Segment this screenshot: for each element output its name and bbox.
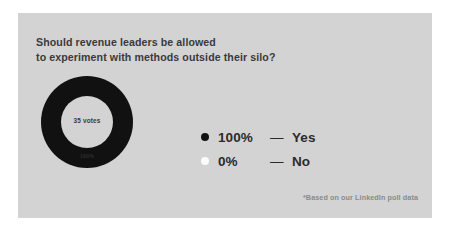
donut-chart: 35 votes 100% [41,76,133,168]
donut-center-votes-label: 35 votes [41,117,133,124]
chart-legend: 100% — Yes 0% — No [201,125,316,173]
footnote-source-note: *Based on our LinkedIn poll data [303,193,418,202]
poll-card: Should revenue leaders be allowed to exp… [18,13,432,218]
legend-percent-yes: 100% [218,130,270,145]
legend-dash-no: — [270,154,292,169]
legend-percent-no: 0% [218,154,270,169]
legend-dot-icon-no [201,157,209,165]
legend-label-yes: Yes [292,130,316,145]
legend-dot-icon-yes [201,133,209,141]
page-title: Should revenue leaders be allowed to exp… [36,35,376,65]
donut-slice-percent-label: 100% [41,153,133,159]
legend-dash-yes: — [270,130,292,145]
legend-label-no: No [292,154,310,169]
legend-item-no: 0% — No [201,149,316,173]
legend-item-yes: 100% — Yes [201,125,316,149]
